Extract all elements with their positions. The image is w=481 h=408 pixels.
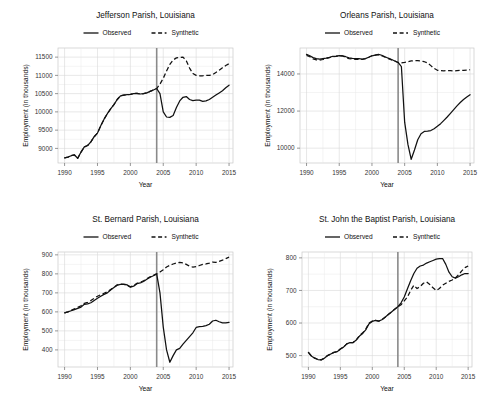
x-tick-label: 1995 — [90, 169, 105, 176]
x-tick-label: 2000 — [123, 373, 138, 380]
x-tick-label: 1990 — [57, 373, 72, 380]
y-axis-label: Employment (in thousands) — [266, 268, 274, 351]
chart-panel: St. Bernard Parish, LouisianaObservedSyn… — [0, 204, 240, 408]
chart-panel: Orleans Parish, LouisianaObservedSynthet… — [240, 0, 481, 204]
figure-grid: Jefferson Parish, LouisianaObservedSynth… — [0, 0, 481, 408]
chart-svg: Orleans Parish, LouisianaObservedSynthet… — [240, 0, 480, 204]
x-tick-label: 2000 — [365, 169, 380, 176]
y-tick-label: 14000 — [277, 70, 295, 77]
chart-svg: St. John the Baptist Parish, LouisianaOb… — [240, 204, 480, 408]
x-tick-label: 2015 — [222, 373, 237, 380]
x-axis-label: Year — [380, 181, 394, 188]
panel-title: St. Bernard Parish, Louisiana — [92, 215, 199, 224]
x-tick-label: 1990 — [299, 169, 314, 176]
legend-observed-label: Observed — [344, 233, 373, 240]
x-tick-label: 1995 — [333, 373, 348, 380]
x-tick-label: 2000 — [123, 169, 138, 176]
x-tick-label: 2015 — [463, 169, 478, 176]
legend-synthetic-label: Synthetic — [172, 29, 200, 37]
y-tick-label: 9000 — [38, 145, 53, 152]
y-tick-label: 11000 — [35, 72, 53, 79]
x-tick-label: 1990 — [57, 169, 72, 176]
x-tick-label: 2010 — [429, 373, 444, 380]
chart-svg: St. Bernard Parish, LouisianaObservedSyn… — [0, 204, 240, 408]
y-tick-label: 800 — [286, 254, 297, 261]
chart-panel: Jefferson Parish, LouisianaObservedSynth… — [0, 0, 240, 204]
y-tick-label: 9500 — [38, 126, 53, 133]
chart-panel: St. John the Baptist Parish, LouisianaOb… — [240, 204, 481, 408]
y-tick-label: 10000 — [277, 144, 295, 151]
y-tick-label: 11500 — [35, 53, 53, 60]
y-axis-label: Employment (in thousands) — [22, 268, 30, 351]
y-tick-label: 500 — [42, 327, 53, 334]
y-tick-label: 500 — [286, 352, 297, 359]
y-tick-label: 800 — [42, 270, 53, 277]
x-tick-label: 2005 — [398, 169, 413, 176]
x-tick-label: 2005 — [397, 373, 412, 380]
plot-area-border — [300, 48, 474, 163]
legend-synthetic-label: Synthetic — [413, 233, 441, 241]
legend-synthetic-label: Synthetic — [413, 29, 441, 37]
x-tick-label: 2015 — [222, 169, 237, 176]
x-tick-label: 2010 — [430, 169, 445, 176]
panel-title: St. John the Baptist Parish, Louisiana — [319, 215, 456, 224]
x-tick-label: 1990 — [301, 373, 316, 380]
legend-observed-label: Observed — [344, 29, 373, 36]
y-tick-label: 600 — [42, 308, 53, 315]
legend-observed-label: Observed — [103, 233, 132, 240]
legend-observed-label: Observed — [103, 29, 132, 36]
y-tick-label: 10500 — [35, 90, 53, 97]
y-tick-label: 12000 — [277, 107, 295, 114]
y-tick-label: 10000 — [35, 108, 53, 115]
x-tick-label: 2000 — [365, 373, 380, 380]
x-axis-label: Year — [380, 385, 394, 392]
x-axis-label: Year — [139, 385, 153, 392]
y-tick-label: 900 — [42, 251, 53, 258]
plot-area-border — [58, 48, 233, 163]
legend-synthetic-label: Synthetic — [172, 233, 200, 241]
x-axis-label: Year — [139, 181, 153, 188]
x-tick-label: 2005 — [156, 169, 171, 176]
y-tick-label: 700 — [42, 289, 53, 296]
y-tick-label: 700 — [286, 287, 297, 294]
chart-svg: Jefferson Parish, LouisianaObservedSynth… — [0, 0, 240, 204]
y-tick-label: 400 — [42, 346, 53, 353]
y-axis-label: Employment (in thousands) — [22, 64, 30, 147]
x-tick-label: 1995 — [90, 373, 105, 380]
y-tick-label: 600 — [286, 319, 297, 326]
x-tick-label: 2015 — [461, 373, 476, 380]
x-tick-label: 2010 — [189, 373, 204, 380]
x-tick-label: 2010 — [189, 169, 204, 176]
x-tick-label: 1995 — [332, 169, 347, 176]
plot-area-border — [302, 252, 472, 367]
panel-title: Jefferson Parish, Louisiana — [96, 11, 195, 20]
x-tick-label: 2005 — [156, 373, 171, 380]
panel-title: Orleans Parish, Louisiana — [340, 11, 434, 20]
y-axis-label: Employment (in thousands) — [264, 64, 272, 147]
